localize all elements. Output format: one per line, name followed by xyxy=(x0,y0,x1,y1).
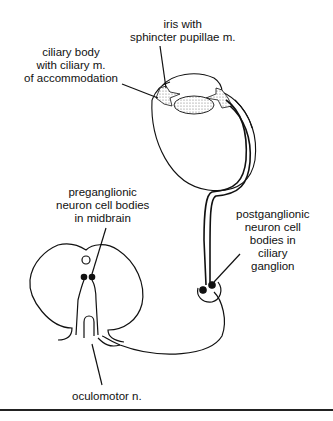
preganglionic-cell-body-left xyxy=(81,274,88,281)
label-line: neuron cell xyxy=(236,221,310,234)
lens xyxy=(174,96,214,114)
label-oculomotor: oculomotor n. xyxy=(72,390,142,403)
label-line: ciliary xyxy=(236,247,310,260)
label-ciliary-body: ciliary body with ciliary m. of accommod… xyxy=(24,46,118,85)
label-line: postganglionic xyxy=(236,208,310,221)
label-line: iris with xyxy=(130,18,235,31)
ciliary-ganglion xyxy=(102,282,224,354)
label-line: ciliary body xyxy=(24,46,118,59)
label-postganglionic: postganglionic neuron cell bodies in cil… xyxy=(236,208,310,273)
label-line: bodies in xyxy=(236,234,310,247)
bottom-rule xyxy=(0,409,333,411)
label-line: sphincter pupillae m. xyxy=(130,31,235,44)
label-line: with ciliary m. xyxy=(24,59,118,72)
label-line: preganglionic xyxy=(56,186,149,199)
label-line: in midbrain xyxy=(56,212,149,225)
label-line: ganglion xyxy=(236,260,310,273)
label-preganglionic: preganglionic neuron cell bodies in midb… xyxy=(56,186,149,225)
preganglionic-cell-body-right xyxy=(89,274,96,281)
label-iris: iris with sphincter pupillae m. xyxy=(130,18,235,44)
midbrain-section xyxy=(30,244,143,346)
label-line: of accommodation xyxy=(24,72,118,85)
label-line: neuron cell bodies xyxy=(56,199,149,212)
label-line: oculomotor n. xyxy=(72,390,142,403)
